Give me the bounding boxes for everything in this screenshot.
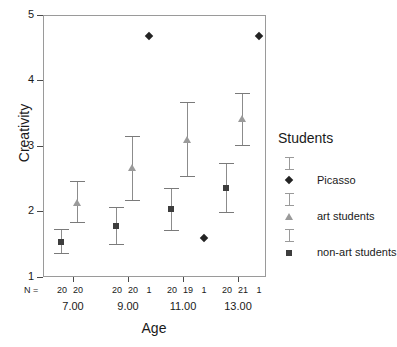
y-tick-label-1: 1: [18, 271, 34, 282]
errorbar-icon: [285, 193, 294, 206]
x-group-label-7: 7.00: [43, 300, 103, 312]
legend-item-picasso[interactable]: Picasso: [276, 157, 392, 193]
x-axis-title: Age: [124, 320, 184, 336]
x-tick-13: [238, 277, 239, 282]
x-group-label-11: 11.00: [153, 300, 213, 312]
errorbar-cap-bottom-art-9: [125, 200, 140, 201]
legend-label-non-art-students: non-art students: [317, 246, 397, 258]
n-row-label: N =: [24, 285, 38, 295]
y-tick-label-2: 2: [18, 205, 34, 216]
errorbar-cap-top-art-7: [70, 181, 85, 182]
errorbar-cap-bottom-nonart-9: [109, 244, 124, 245]
diamond-marker-icon: [285, 176, 295, 185]
y-tick-5: [37, 15, 43, 16]
legend-label-picasso: Picasso: [317, 174, 356, 186]
y-tick-label-3: 3: [18, 140, 34, 151]
errorbar-cap-bottom-nonart-7: [54, 253, 69, 254]
y-tick-2: [37, 211, 43, 212]
legend: Students Picasso art students: [276, 131, 392, 265]
errorbar-cap-top-nonart-11: [164, 188, 179, 189]
square-marker-icon: [285, 248, 295, 257]
marker-art-9: [128, 164, 136, 171]
triangle-marker-icon: [285, 212, 295, 221]
marker-nonart-7: [58, 239, 64, 245]
errorbar-cap-top-nonart-13: [219, 163, 234, 164]
errorbar-cap-bottom-art-7: [70, 222, 85, 223]
errorbar-cap-top-nonart-9: [109, 207, 124, 208]
x-group-label-9: 9.00: [98, 300, 158, 312]
errorbar-cap-bottom-nonart-13: [219, 212, 234, 213]
marker-nonart-9: [113, 223, 119, 229]
errorbar-icon: [285, 229, 294, 242]
errorbar-cap-top-art-9: [125, 136, 140, 137]
marker-art-13: [238, 115, 246, 122]
n-value-art-7: 20: [69, 285, 87, 295]
marker-nonart-13: [223, 185, 229, 191]
errorbar-cap-top-nonart-7: [54, 229, 69, 230]
x-tick-7: [73, 277, 74, 282]
y-tick-4: [37, 80, 43, 81]
n-value-picasso-13: 1: [250, 285, 268, 295]
y-tick-1: [37, 277, 43, 278]
n-value-picasso-11: 1: [195, 285, 213, 295]
legend-title: Students: [278, 131, 392, 146]
errorbar-icon: [285, 157, 294, 170]
n-value-picasso-9: 1: [140, 285, 158, 295]
x-tick-11: [183, 277, 184, 282]
plot-area: [43, 15, 266, 277]
errorbar-cap-top-art-11: [180, 102, 195, 103]
marker-art-11: [183, 136, 191, 143]
errorbar-cap-bottom-nonart-11: [164, 230, 179, 231]
legend-label-art-students: art students: [317, 210, 374, 222]
marker-nonart-11: [168, 206, 174, 212]
x-group-label-13: 13.00: [208, 300, 268, 312]
x-tick-9: [128, 277, 129, 282]
errorbar-cap-bottom-art-11: [180, 176, 195, 177]
errorbar-cap-top-art-13: [235, 93, 250, 94]
marker-art-7: [73, 199, 81, 206]
y-tick-3: [37, 146, 43, 147]
errorbar-cap-bottom-art-13: [235, 145, 250, 146]
legend-item-non-art-students[interactable]: non-art students: [276, 229, 392, 265]
y-tick-label-4: 4: [18, 74, 34, 85]
legend-item-art-students[interactable]: art students: [276, 193, 392, 229]
y-tick-label-5: 5: [18, 9, 34, 20]
